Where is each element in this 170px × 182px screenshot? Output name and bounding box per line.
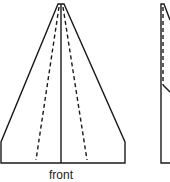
front-view-outline [1, 4, 125, 163]
front-view [1, 4, 125, 163]
side-view-partial [161, 4, 170, 163]
diagram-canvas [0, 0, 170, 182]
side-view-outline [161, 4, 170, 163]
front-view-label: front [36, 168, 86, 182]
side-view-fold-segment [163, 85, 170, 92]
